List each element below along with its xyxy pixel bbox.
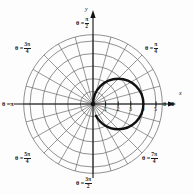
x-tick-5: 5	[154, 106, 157, 112]
fraction-3pi-2: 3π2	[85, 177, 92, 190]
polar-plot-canvas	[0, 0, 194, 195]
x-tick-1: 1	[104, 106, 107, 112]
polar-plot-figure: y x 1 2 3 4 5 θ =0 θ =π4 θ =π2 θ =3π4 θ …	[0, 0, 194, 195]
angle-label-prefix: θ =	[76, 179, 84, 186]
angle-label-theta-pi-4: θ =π4	[145, 42, 158, 55]
fraction-denominator: 4	[152, 159, 156, 165]
x-tick-3: 3	[129, 106, 132, 112]
angle-label-value: π	[10, 100, 13, 107]
angle-label-theta-0: θ =0	[163, 101, 174, 107]
fraction-denominator: 2	[85, 24, 89, 30]
angle-label-value: 0	[171, 100, 174, 107]
angle-label-prefix: θ =	[76, 19, 84, 26]
fraction-pi-2: π2	[85, 17, 89, 30]
fraction-denominator: 4	[25, 49, 29, 55]
y-axis-label: y	[85, 6, 88, 12]
x-tick-4: 4	[142, 106, 145, 112]
fraction-3pi-4: 3π4	[24, 42, 31, 55]
fraction-denominator: 2	[86, 184, 90, 190]
angle-label-theta-5pi-4: θ =5π4	[15, 152, 31, 165]
angle-label-theta-pi: θ =π	[2, 101, 14, 107]
fraction-denominator: 4	[154, 49, 158, 55]
fraction-pi-4: π4	[154, 42, 158, 55]
angle-label-theta-pi-2: θ =π2	[76, 17, 89, 30]
angle-label-theta-3pi-2: θ =3π2	[76, 177, 92, 190]
angle-label-prefix: θ =	[15, 44, 23, 51]
fraction-5pi-4: 5π4	[24, 152, 31, 165]
fraction-denominator: 4	[25, 159, 29, 165]
angle-label-prefix: θ =	[142, 154, 150, 161]
x-tick-2: 2	[117, 106, 120, 112]
angle-label-theta-3pi-4: θ =3π4	[15, 42, 31, 55]
angle-label-prefix: θ =	[15, 154, 23, 161]
angle-label-prefix: θ =	[145, 44, 153, 51]
x-axis-label: x	[179, 90, 182, 96]
fraction-7pi-4: 7π4	[151, 152, 158, 165]
angle-label-theta-7pi-4: θ =7π4	[142, 152, 158, 165]
